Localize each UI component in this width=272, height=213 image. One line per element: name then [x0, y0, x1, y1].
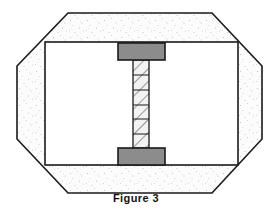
figure-diagram	[0, 0, 272, 213]
bottom-flange	[118, 148, 165, 165]
figure-caption: Figure 3	[0, 192, 272, 204]
web-column-group	[133, 60, 149, 148]
figure-container: Figure 3	[0, 0, 272, 213]
top-flange	[118, 43, 165, 60]
web-column	[133, 60, 149, 148]
